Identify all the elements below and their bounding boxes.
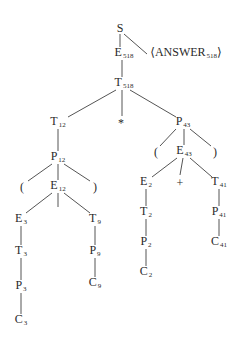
node-symbol: C	[89, 275, 97, 289]
node-symbol: S	[117, 21, 124, 35]
node-subscript: 2	[148, 241, 152, 249]
tree-edge	[64, 193, 90, 213]
tree-edge	[26, 193, 52, 213]
tree-node-e518: E518	[115, 46, 134, 62]
node-subscript: 3	[23, 218, 27, 226]
node-subscript: 518	[123, 82, 134, 90]
tree-node-p41: P41	[212, 205, 227, 221]
tree-node-t12: T12	[50, 115, 65, 131]
node-tail: ⟩	[217, 45, 222, 59]
node-subscript: 9	[98, 282, 102, 290]
tree-node-lp12: (	[20, 181, 24, 193]
node-subscript: 3	[23, 250, 27, 258]
tree-node-t3: T3	[15, 244, 27, 260]
node-symbol: T	[50, 114, 57, 128]
tree-edge	[190, 158, 212, 177]
tree-node-t2: T2	[140, 205, 152, 221]
tree-node-e12: E12	[50, 179, 65, 195]
tree-node-e3: E3	[15, 212, 27, 228]
node-symbol: E	[15, 211, 22, 225]
node-symbol: E	[140, 174, 147, 188]
tree-node-p9: P9	[89, 244, 100, 260]
tree-node-e43: E43	[176, 144, 191, 160]
node-symbol: P	[51, 149, 58, 163]
tree-node-c41: C41	[211, 235, 227, 251]
tree-node-p43: P43	[176, 115, 191, 131]
node-subscript: 41	[219, 211, 226, 219]
tree-edge	[130, 90, 176, 117]
node-subscript: 43	[185, 150, 192, 158]
node-symbol: E	[176, 143, 183, 157]
node-subscript: 518	[207, 52, 218, 60]
tree-node-c3: C3	[15, 313, 28, 329]
tree-node-lp43: (	[154, 146, 158, 158]
tree-node-plus: +	[177, 177, 184, 189]
node-symbol: P	[15, 278, 22, 292]
node-symbol: (	[154, 145, 158, 159]
tree-edge	[68, 90, 116, 117]
tree-node-p3: P3	[15, 279, 26, 295]
node-symbol: +	[177, 176, 184, 190]
node-symbol: ⟨ANSWER	[150, 45, 205, 59]
node-subscript: 12	[58, 156, 65, 164]
tree-node-rp12: )	[93, 181, 97, 193]
parse-tree-diagram: SE518⟨ANSWER518⟩T518T12*P43P12(E43)(E12)…	[0, 0, 240, 344]
node-symbol: C	[140, 264, 148, 278]
tree-edge	[64, 164, 90, 181]
tree-node-t518: T518	[115, 76, 134, 92]
tree-node-p2: P2	[140, 235, 151, 251]
tree-node-c2: C2	[140, 265, 153, 281]
node-symbol: E	[50, 178, 57, 192]
node-subscript: 9	[97, 218, 101, 226]
node-subscript: 2	[148, 211, 152, 219]
node-symbol: T	[140, 204, 147, 218]
tree-node-c9: C9	[89, 276, 102, 292]
tree-edge	[160, 129, 176, 146]
tree-edge	[190, 129, 211, 146]
tree-edge	[180, 158, 183, 175]
node-symbol: C	[211, 234, 219, 248]
tree-node-t9: T9	[89, 212, 101, 228]
tree-node-rp43: )	[213, 146, 217, 158]
node-subscript: 518	[123, 52, 134, 60]
node-symbol: *	[118, 116, 124, 130]
node-subscript: 12	[59, 121, 66, 129]
tree-node-t41: T41	[211, 175, 226, 191]
node-symbol: (	[20, 180, 24, 194]
node-subscript: 3	[23, 285, 27, 293]
node-subscript: 43	[183, 121, 190, 129]
node-subscript: 3	[24, 319, 28, 327]
node-subscript: 12	[59, 185, 66, 193]
node-subscript: 41	[220, 181, 227, 189]
node-symbol: )	[213, 145, 217, 159]
tree-edge	[28, 164, 52, 181]
node-subscript: 2	[148, 181, 152, 189]
node-symbol: T	[211, 174, 218, 188]
tree-node-ans: ⟨ANSWER518⟩	[150, 46, 222, 62]
node-symbol: T	[15, 243, 22, 257]
tree-edge	[152, 158, 177, 177]
tree-node-s: S	[117, 22, 124, 34]
node-symbol: P	[89, 243, 96, 257]
node-symbol: P	[140, 234, 147, 248]
node-symbol: T	[115, 75, 122, 89]
node-subscript: 41	[220, 241, 227, 249]
node-symbol: P	[176, 114, 183, 128]
node-subscript: 2	[149, 271, 153, 279]
tree-node-p12: P12	[51, 150, 66, 166]
node-symbol: P	[212, 204, 219, 218]
tree-node-star: *	[118, 117, 124, 129]
node-symbol: )	[93, 180, 97, 194]
node-symbol: T	[89, 211, 96, 225]
node-symbol: E	[115, 45, 122, 59]
tree-node-e2: E2	[140, 175, 152, 191]
node-subscript: 9	[97, 250, 101, 258]
node-symbol: C	[15, 312, 23, 326]
